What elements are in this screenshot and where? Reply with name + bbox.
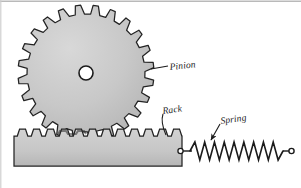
label-pinion: Pinion bbox=[168, 59, 196, 72]
pinion-hub bbox=[79, 66, 93, 80]
label-spring: Spring bbox=[220, 112, 247, 126]
figure-canvas: Pinion Rack Spring bbox=[0, 0, 301, 188]
spring-leader bbox=[211, 124, 220, 140]
rack-eyelet bbox=[178, 148, 183, 153]
spring-assembly bbox=[178, 142, 294, 160]
pinion-gear bbox=[18, 5, 154, 141]
label-rack: Rack bbox=[161, 103, 183, 116]
rack-and-pinion-diagram: Pinion Rack Spring bbox=[0, 0, 301, 188]
rack-bar bbox=[14, 129, 182, 166]
spring-end-eyelet bbox=[289, 148, 294, 153]
